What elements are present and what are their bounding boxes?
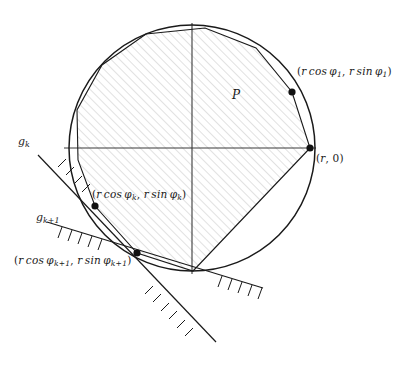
gk-subscript: k: [25, 140, 30, 149]
separator: ,: [137, 188, 144, 200]
vertex-marker-phik1: [133, 249, 140, 256]
paren-close: ): [127, 254, 131, 266]
geometry-figure: P (r cos φ1, r sin φ1) (r, 0) (r cos φk,…: [0, 0, 401, 369]
x-angle: φ: [46, 254, 54, 266]
gk-base: g: [18, 135, 25, 148]
vertex-marker-phik: [91, 202, 98, 209]
x-angle-subscript: k+1: [54, 259, 70, 268]
gk1-subscript: k+1: [43, 216, 59, 225]
separator: ,: [342, 65, 349, 77]
paren-close: ): [388, 65, 392, 77]
x-cos: cos: [309, 65, 327, 77]
x-cos: cos: [26, 254, 44, 266]
y-radius: r: [77, 254, 82, 266]
x-angle: φ: [329, 65, 337, 77]
vertex-label-r0: (r, 0): [316, 153, 344, 164]
vertex-label-phik: (r cos φk, r sin φk): [92, 189, 186, 201]
line-label-gk: gk: [18, 136, 30, 149]
vertex-label-phik1: (r cos φk+1, r sin φk+1): [14, 255, 131, 267]
zero: 0: [333, 152, 340, 164]
y-sin: sin: [85, 254, 101, 266]
y-radius: r: [144, 188, 149, 200]
line-label-gk1: gk+1: [36, 212, 60, 225]
y-sin: sin: [357, 65, 373, 77]
y-angle-subscript: k+1: [111, 259, 127, 268]
x-angle: φ: [124, 188, 132, 200]
vertex-marker-r0: [306, 144, 313, 151]
y-angle: φ: [103, 254, 111, 266]
y-angle: φ: [375, 65, 383, 77]
vertex-marker-phi1: [288, 88, 295, 95]
region-label-P: P: [232, 89, 240, 101]
paren-close: ): [340, 152, 344, 164]
polygon-interior-hatching: [77, 28, 310, 271]
vertex-label-phi1: (r cos φ1, r sin φ1): [297, 66, 392, 78]
x-radius: r: [301, 65, 306, 77]
paren-close: ): [182, 188, 186, 200]
x-radius: r: [96, 188, 101, 200]
x-cos: cos: [104, 188, 122, 200]
y-radius: r: [349, 65, 354, 77]
gk1-base: g: [36, 211, 43, 224]
y-sin: sin: [151, 188, 167, 200]
separator: ,: [326, 152, 333, 164]
x-radius: r: [18, 254, 23, 266]
diagram-canvas: [0, 0, 401, 369]
